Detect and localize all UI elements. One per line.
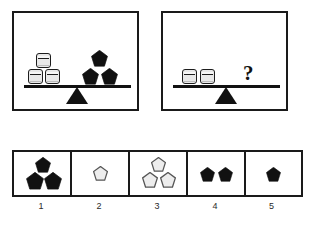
- question-mark: ?: [243, 63, 254, 84]
- option-label-4: 4: [186, 199, 244, 217]
- option-1-art: [14, 152, 70, 195]
- pentagon-shape: [160, 172, 176, 188]
- pentagon-shape: [266, 167, 281, 182]
- pentagon-shape: [151, 157, 166, 172]
- balance-scale-right: ?: [163, 13, 286, 109]
- pentagon-shape: [142, 172, 158, 188]
- option-3-art: [130, 152, 186, 195]
- pentagon-shape: [218, 167, 233, 182]
- cylinder-weight: [200, 69, 215, 84]
- option-label-5: 5: [244, 199, 299, 217]
- pentagon-shape: [200, 167, 215, 182]
- pentagon-shape: [26, 172, 44, 190]
- answer-option-2[interactable]: [72, 152, 130, 195]
- pentagon-shape: [35, 157, 51, 173]
- right-balance-panel: ?: [161, 11, 288, 111]
- pentagon-weight: [101, 68, 118, 85]
- answer-option-4[interactable]: [188, 152, 246, 195]
- option-label-1: 1: [12, 199, 70, 217]
- fulcrum-triangle: [215, 87, 237, 104]
- puzzle-canvas: ?: [0, 0, 311, 227]
- option-4-art: [188, 152, 244, 195]
- pentagon-weight: [82, 68, 99, 85]
- answer-option-5[interactable]: [246, 152, 301, 195]
- pentagon-weight: [91, 50, 108, 67]
- option-2-art: [72, 152, 128, 195]
- answer-options-row: [12, 150, 303, 197]
- answer-option-3[interactable]: [130, 152, 188, 195]
- cylinder-weight: [182, 69, 197, 84]
- fulcrum-triangle: [66, 87, 88, 104]
- pentagon-shape: [93, 166, 108, 181]
- left-balance-panel: [12, 11, 139, 111]
- option-label-2: 2: [70, 199, 128, 217]
- option-5-art: [246, 152, 301, 195]
- balance-scale-left: [14, 13, 137, 109]
- cylinder-weight: [45, 69, 60, 84]
- answer-option-1[interactable]: [14, 152, 72, 195]
- cylinder-weight: [36, 53, 51, 68]
- cylinder-weight: [28, 69, 43, 84]
- answer-option-labels: 1 2 3 4 5: [12, 199, 303, 217]
- option-label-3: 3: [128, 199, 186, 217]
- pentagon-shape: [44, 172, 62, 190]
